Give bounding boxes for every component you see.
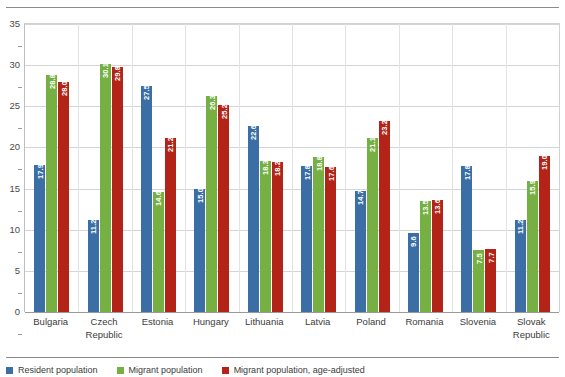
bar[interactable]: 17.9: [34, 165, 45, 312]
bar-value-label: 28.0: [58, 85, 69, 96]
bar[interactable]: 13.6: [432, 200, 443, 312]
bar[interactable]: 21.2: [165, 138, 176, 312]
bar[interactable]: 11.2: [515, 220, 526, 312]
bar-value-label: 17.9: [34, 168, 45, 179]
bar-group: 11.215.919.0: [506, 24, 559, 312]
y-axis-tick: [18, 87, 22, 88]
bar-value-label: 21.2: [165, 141, 176, 152]
bar[interactable]: 9.6: [408, 233, 419, 312]
bar-value-label: 7.5: [473, 253, 484, 264]
bar[interactable]: 21.1: [367, 138, 378, 312]
legend-item[interactable]: Migrant population, age-adjusted: [222, 365, 365, 375]
legend-item[interactable]: Resident population: [6, 365, 98, 375]
bar-value-label: 13.5: [420, 204, 431, 215]
bar[interactable]: 13.5: [420, 201, 431, 312]
bar-group: 22.618.318.2: [239, 24, 292, 312]
category-label: Estonia: [131, 316, 184, 329]
legend-label: Migrant population, age-adjusted: [234, 365, 365, 375]
bar-value-label: 14.7: [355, 194, 366, 205]
top-divider-rule: [6, 7, 559, 8]
bar[interactable]: 25.2: [218, 105, 229, 312]
legend-label: Migrant population: [129, 365, 203, 375]
bar[interactable]: 17.8: [461, 166, 472, 312]
legend-swatch: [117, 367, 124, 374]
gridline-0: [25, 312, 559, 313]
bar[interactable]: 15.9: [527, 181, 538, 312]
bar-group-bars: 9.613.513.6: [399, 24, 452, 312]
y-axis-tick-label: 5: [0, 264, 20, 275]
bar-value-label: 19.0: [539, 159, 550, 170]
bar[interactable]: 18.8: [313, 157, 324, 312]
bar-value-label: 22.6: [248, 129, 259, 140]
y-axis-tick: [18, 293, 22, 294]
legend-label: Resident population: [18, 365, 98, 375]
bar[interactable]: 29.8: [112, 67, 123, 312]
bar-group-bars: 11.215.919.0: [506, 24, 559, 312]
bar-group-bars: 17.87.57.7: [452, 24, 505, 312]
bar[interactable]: 28.0: [58, 82, 69, 312]
bar-value-label: 9.6: [408, 236, 419, 247]
legend-swatch: [222, 367, 229, 374]
bar[interactable]: 26.3: [206, 96, 217, 312]
y-axis-tick-label: 35: [0, 18, 20, 29]
y-axis-tick: [18, 334, 22, 335]
bar-group: 17.818.817.6: [292, 24, 345, 312]
bar[interactable]: 15.0: [194, 189, 205, 312]
legend-swatch: [6, 367, 13, 374]
y-axis-tick: [18, 211, 22, 212]
bar[interactable]: 17.6: [325, 167, 336, 312]
plot-frame: 17.928.828.011.230.129.827.514.621.215.0…: [24, 23, 560, 312]
bar[interactable]: 14.7: [355, 191, 366, 312]
bar[interactable]: 7.7: [485, 249, 496, 312]
bar[interactable]: 7.5: [473, 250, 484, 312]
bar-group: 14.721.123.2: [345, 24, 398, 312]
bar-value-label: 21.1: [367, 141, 378, 152]
bar-value-label: 28.8: [46, 78, 57, 89]
bar-group: 15.026.325.2: [185, 24, 238, 312]
bar-group: 11.230.129.8: [78, 24, 131, 312]
bar-group: 27.514.621.2: [132, 24, 185, 312]
bar[interactable]: 11.2: [88, 220, 99, 312]
bar-group: 17.928.828.0: [25, 24, 78, 312]
legend-item[interactable]: Migrant population: [117, 365, 203, 375]
bar-value-label: 7.7: [485, 252, 496, 263]
bar-group-bars: 17.818.817.6: [292, 24, 345, 312]
bar[interactable]: 30.1: [100, 64, 111, 312]
bar[interactable]: 18.2: [272, 162, 283, 312]
bar-value-label: 17.8: [461, 169, 472, 180]
bar[interactable]: 14.6: [153, 192, 164, 312]
y-axis-tick-label: 20: [0, 141, 20, 152]
bar[interactable]: 18.3: [260, 161, 271, 312]
y-axis-tick: [18, 46, 22, 47]
y-axis-tick-label: 25: [0, 100, 20, 111]
clipped-title: [150, 0, 450, 5]
bar-group-bars: 14.721.123.2: [345, 24, 398, 312]
bar-value-label: 17.8: [301, 169, 312, 180]
category-label: Slovak Republic: [505, 316, 558, 341]
bar[interactable]: 22.6: [248, 126, 259, 312]
bar[interactable]: 19.0: [539, 156, 550, 312]
bar[interactable]: 27.5: [141, 86, 152, 312]
bar-value-label: 14.6: [153, 195, 164, 206]
bar-value-label: 26.3: [206, 99, 217, 110]
bar-value-label: 23.2: [379, 124, 390, 135]
category-label: Lithuania: [238, 316, 291, 329]
bar-value-label: 11.2: [515, 223, 526, 234]
y-axis-tick-label: 15: [0, 182, 20, 193]
bar-group: 17.87.57.7: [452, 24, 505, 312]
bar-value-label: 25.2: [218, 108, 229, 119]
bar-value-label: 27.5: [141, 89, 152, 100]
category-label: Poland: [344, 316, 397, 329]
y-axis-tick: [18, 128, 22, 129]
bar-value-label: 18.3: [260, 164, 271, 175]
bar[interactable]: 28.8: [46, 75, 57, 312]
bar-group-bars: 27.514.621.2: [132, 24, 185, 312]
category-label: Slovenia: [451, 316, 504, 329]
chart-plot-area: 17.928.828.011.230.129.827.514.621.215.0…: [24, 23, 560, 312]
bar-group-bars: 17.928.828.0: [25, 24, 78, 312]
y-axis-tick-label: 10: [0, 223, 20, 234]
bar-group-bars: 15.026.325.2: [185, 24, 238, 312]
bar-value-label: 30.1: [100, 67, 111, 78]
bar[interactable]: 23.2: [379, 121, 390, 312]
bar[interactable]: 17.8: [301, 166, 312, 312]
